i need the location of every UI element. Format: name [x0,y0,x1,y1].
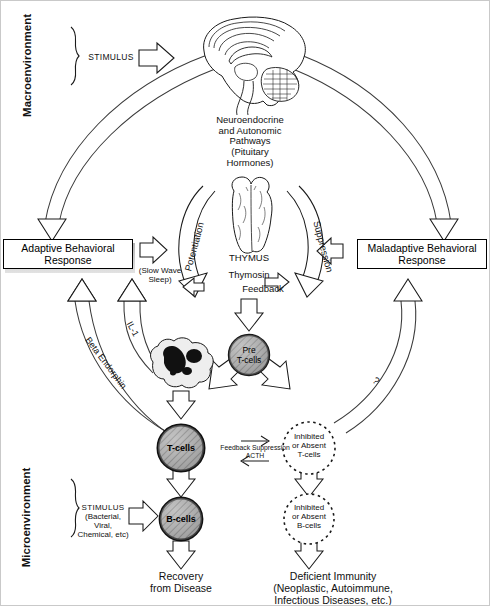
outer-loop-right-head [430,219,458,241]
thymus-illustration [232,177,272,253]
macrophage-to-t-arrow [167,391,195,419]
recovery-outcome-label: Recovery from Disease [131,571,231,595]
question-path [334,301,416,433]
t-cells-label: T-cells [157,443,205,453]
b-to-recovery-arrow [167,541,195,569]
inhibited-b-cells-label: Inhibited or Absent B-cells [279,504,339,531]
diagram-canvas: Macroenvironment Microenvironment STIMUL… [0,0,490,606]
macrophage-cell [151,338,214,388]
recovery-line-1: Recovery [131,571,231,583]
micro-stim-line-3: Chemical, etc) [75,531,131,540]
adaptive-behavioral-response-box[interactable]: Adaptive Behavioral Response [3,239,133,269]
macro-brace [71,27,79,85]
inhibited-b-to-deficient-arrow [295,541,323,569]
pathway-line-4: (Pituitary [195,147,305,158]
slow-wave-sleep-label: (Slow Wave Sleep) [123,267,197,285]
inhibited-t-cells-label: Inhibited or Absent T-cells [279,433,339,460]
thymosin-label: Thymosin [214,270,284,281]
pre-t-line-2: T-cells [227,356,271,366]
slow-wave-line-2: Sleep) [123,276,197,285]
deficient-line-1: Deficient Immunity [233,571,433,583]
t-to-b-arrow [167,469,195,497]
outer-loop-left-head [38,219,66,241]
thymus-to-pre-t-arrow [235,299,263,331]
macro-stimulus-arrow [139,43,174,73]
pathway-line-5: Hormones) [195,158,305,169]
macroenvironment-label: Macroenvironment [21,0,34,135]
question-head [394,279,422,301]
brain-illustration [204,17,306,115]
deficient-immunity-outcome-label: Deficient Immunity (Neoplastic, Autoimmu… [233,571,433,606]
microenvironment-label: Microenvironment [20,447,33,587]
maladaptive-line-2: Response [398,254,445,266]
outer-loop-left [45,55,215,223]
maladaptive-line-1: Maladaptive Behavioral [367,242,476,254]
inhibited-b-line-3: B-cells [279,522,339,531]
outer-loop-right [293,55,451,223]
b-cells-label: B-cells [157,514,205,524]
micro-stim-line-2: (Bacterial, Viral, [75,513,131,531]
neuroendocrine-pathways-label: Neuroendocrine and Autonomic Pathways (P… [195,115,305,168]
micro-stimulus-label: STIMULUS (Bacterial, Viral, Chemical, et… [75,504,131,540]
deficient-line-3: Infectious Diseases, etc.) [233,595,433,606]
adaptive-line-1: Adaptive Behavioral [21,242,114,254]
macro-stimulus-label: STIMULUS [83,53,139,63]
feedback-label: Feedback [235,284,291,295]
recovery-line-2: from Disease [131,583,231,595]
inhibited-t-line-3: T-cells [279,451,339,460]
deficient-line-2: (Neoplastic, Autoimmune, [233,583,433,595]
maladaptive-behavioral-response-box[interactable]: Maladaptive Behavioral Response [357,239,487,269]
micro-stimulus-arrow [129,501,158,531]
slow-wave-arrow [140,237,167,263]
adaptive-line-2: Response [44,254,91,266]
thymus-label: THYMUS [214,253,284,264]
pre-t-cells-label: Pre T-cells [227,346,271,365]
